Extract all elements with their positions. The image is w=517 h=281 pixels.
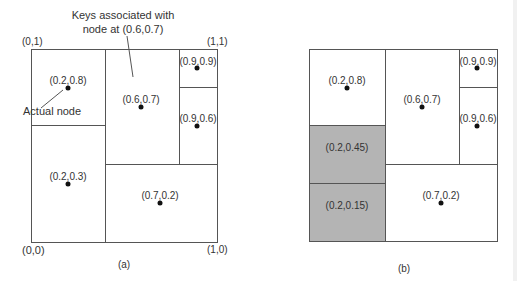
point-label: (0.2,0.3) — [49, 172, 86, 182]
point-marker — [475, 66, 480, 71]
shaded-cell-label: (0.2,0.15) — [326, 201, 369, 211]
point-label: (0.6,0.7) — [122, 95, 159, 105]
keys-callout-leader — [127, 36, 133, 77]
point-marker — [420, 105, 425, 110]
corner-top-left: (0,1) — [22, 37, 43, 47]
page-edge — [513, 0, 517, 281]
shaded-cell-label: (0.2,0.45) — [326, 143, 369, 153]
point-label: (0.2,0.8) — [328, 76, 365, 86]
point-label: (0.9,0.6) — [459, 114, 496, 124]
actual-node-callout: Actual node — [23, 106, 81, 117]
keys-callout-line1: Keys associated with — [72, 10, 175, 21]
corner-bottom-left: (0,0) — [22, 245, 45, 256]
point-marker — [139, 105, 144, 110]
point-label: (0.2,0.8) — [49, 76, 86, 86]
corner-top-right: (1,1) — [207, 37, 228, 47]
point-marker — [66, 86, 71, 91]
panel-b-caption: (b) — [398, 264, 410, 274]
keys-callout-line2: node at (0.6,0.7) — [83, 24, 164, 35]
point-label: (0.7,0.2) — [422, 191, 459, 201]
panel-a-caption: (a) — [118, 260, 130, 270]
point-marker — [158, 201, 163, 206]
point-label: (0.9,0.6) — [179, 114, 216, 124]
point-marker — [475, 124, 480, 129]
corner-bottom-right: (1,0) — [207, 245, 228, 255]
kd-tree-partition-diagram — [0, 0, 517, 281]
point-marker — [345, 86, 350, 91]
point-marker — [195, 124, 200, 129]
point-marker — [195, 66, 200, 71]
point-marker — [439, 201, 444, 206]
point-label: (0.7,0.2) — [141, 191, 178, 201]
point-label: (0.6,0.7) — [403, 95, 440, 105]
point-marker — [66, 182, 71, 187]
